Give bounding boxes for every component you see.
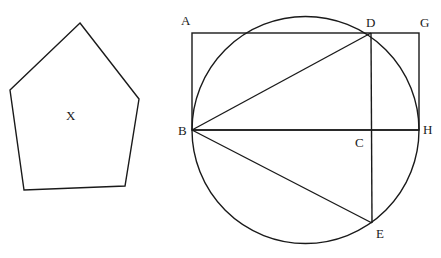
label-h: H [423,122,432,137]
label-e: E [376,226,384,241]
label-d: D [366,15,375,30]
label-c: C [355,135,364,150]
rectangle-aghb [192,33,419,130]
segment-de [371,33,372,223]
diagram-svg: X A B C D E G H [0,0,441,258]
segment-be [192,130,372,223]
label-b: B [178,123,187,138]
segment-bd [192,33,371,130]
pentagon-x [10,23,139,190]
label-a: A [181,13,191,28]
geometry-diagram: X A B C D E G H [0,0,441,258]
label-g: G [420,15,429,30]
label-x: X [66,108,76,123]
